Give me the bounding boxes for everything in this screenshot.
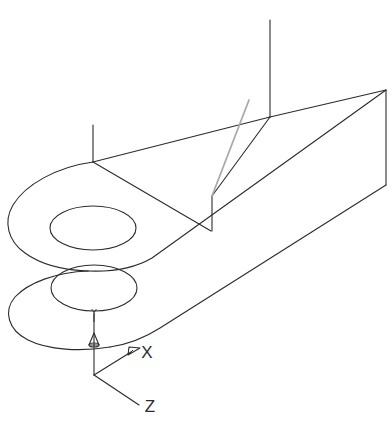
- cad-drawing-canvas[interactable]: Y X Z: [0, 0, 392, 430]
- notch-front-edge: [93, 162, 211, 231]
- hole-top-ellipse: [50, 206, 136, 250]
- top-face-round-end: [8, 162, 93, 271]
- hole-bottom-ellipse: [51, 265, 137, 311]
- top-face-right-back-edge: [270, 90, 386, 117]
- solid-body: [8, 20, 386, 350]
- drawing-viewport[interactable]: Y X Z: [0, 0, 392, 430]
- ucs-z-axis-label: Z: [145, 397, 155, 416]
- ucs-z-axis-line: [94, 375, 139, 405]
- ucs-axis-indicator[interactable]: Y X Z: [89, 307, 155, 416]
- top-face-front-edge: [88, 90, 386, 271]
- construction-line: [212, 100, 249, 196]
- top-face-back-edge: [93, 117, 270, 162]
- ucs-x-axis-line: [94, 352, 131, 375]
- ucs-x-axis-label: X: [141, 343, 152, 362]
- bottom-face-front-edge: [110, 185, 386, 347]
- notch-back-edge: [212, 117, 270, 196]
